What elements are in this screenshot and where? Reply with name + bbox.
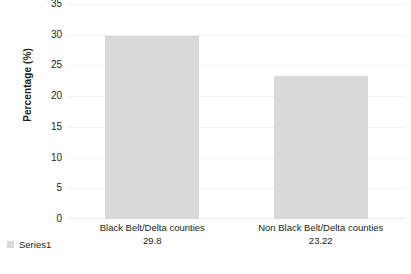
legend-swatch-icon [7,241,14,248]
ytick-label: 10 [36,153,62,163]
category-value-label: 29.8 [68,234,237,247]
category-label: Non Black Belt/Delta counties [237,221,406,234]
category-value-label: 23.22 [237,234,406,247]
chart-legend: Series1 [7,239,51,250]
y-axis-tick-labels: 35 30 25 20 15 10 5 0 [34,4,62,219]
ytick-label: 35 [36,0,62,9]
category-label: Black Belt/Delta counties [68,221,237,234]
category-labels: Black Belt/Delta counties29.8Non Black B… [68,221,405,255]
ytick-label: 25 [36,60,62,70]
bars-layer [68,4,405,219]
plot-area [68,4,405,219]
legend-label: Series1 [19,239,51,250]
category-label-group: Non Black Belt/Delta counties23.22 [237,221,406,247]
ytick-label: 15 [36,122,62,132]
ytick-label: 5 [36,183,62,193]
category-label-group: Black Belt/Delta counties29.8 [68,221,237,247]
ytick-label: 0 [36,214,62,224]
bar-chart: 40 Percentage (%) 35 30 25 20 15 10 5 0 … [0,0,411,274]
ytick-label: 20 [36,91,62,101]
bar [105,36,199,219]
bar [274,76,368,219]
ytick-label: 30 [36,30,62,40]
